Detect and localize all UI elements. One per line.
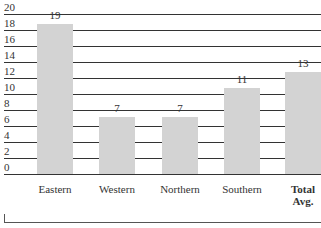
y-tick-label: 18 xyxy=(4,18,15,29)
bar-northern xyxy=(162,117,198,174)
data-label: 7 xyxy=(97,102,137,114)
bar-chart: 20181614121086420 19Eastern7Western7Nort… xyxy=(0,0,321,228)
data-label: 11 xyxy=(222,73,262,85)
y-tick-label: 6 xyxy=(4,114,10,125)
data-label: 7 xyxy=(160,102,200,114)
x-category-label: TotalAvg. xyxy=(273,183,321,207)
bar-western xyxy=(99,117,135,174)
y-tick-label: 4 xyxy=(4,130,10,141)
bar-total-avg xyxy=(285,72,321,174)
y-tick-label: 16 xyxy=(4,34,15,45)
bar-southern xyxy=(224,88,260,174)
y-tick-label: 12 xyxy=(4,66,15,77)
x-category-label: Western xyxy=(87,183,147,195)
y-tick-label: 8 xyxy=(4,98,10,109)
y-tick-label: 10 xyxy=(4,82,15,93)
y-tick-label: 14 xyxy=(4,50,15,61)
data-label: 19 xyxy=(35,9,75,21)
gridline xyxy=(4,174,321,175)
x-category-label: Eastern xyxy=(25,183,85,195)
bar-eastern xyxy=(37,24,73,174)
frame-bottom-edge xyxy=(4,222,321,223)
y-tick-label: 20 xyxy=(4,2,15,13)
x-category-label: Southern xyxy=(212,183,272,195)
data-label: 13 xyxy=(283,57,321,69)
y-tick-label: 2 xyxy=(4,146,10,157)
y-tick-label: 0 xyxy=(4,162,10,173)
x-category-label: Northern xyxy=(150,183,210,195)
